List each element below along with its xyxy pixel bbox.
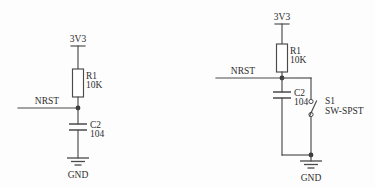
switch-s1[interactable] xyxy=(309,99,317,116)
resistor-body-right xyxy=(277,44,288,72)
ground-symbol-left xyxy=(67,158,89,165)
net-label-nrst-left: NRST xyxy=(35,96,59,106)
ground-label-right: GND xyxy=(301,173,322,183)
circuit-right: 3V3 R1 10K NRST C2 104 xyxy=(216,12,364,183)
switch-designator: S1 xyxy=(325,96,335,106)
ground-symbol-right xyxy=(300,161,322,168)
power-label-right: 3V3 xyxy=(274,12,291,22)
power-label-left: 3V3 xyxy=(70,34,87,44)
schematic-canvas: 3V3 R1 10K NRST C2 104 xyxy=(0,0,375,188)
resistor-body-left xyxy=(73,69,84,97)
capacitor-value-left: 104 xyxy=(90,129,105,139)
net-label-nrst-right: NRST xyxy=(231,66,255,76)
resistor-value-left: 10K xyxy=(86,80,103,90)
schematic-diagram: 3V3 R1 10K NRST C2 104 xyxy=(0,0,375,188)
circuit-left: 3V3 R1 10K NRST C2 104 xyxy=(18,34,105,180)
switch-value: SW-SPST xyxy=(325,106,364,116)
resistor-value-right: 10K xyxy=(290,55,307,65)
ground-label-left: GND xyxy=(68,170,89,180)
switch-terminal-top xyxy=(309,99,313,103)
capacitor-value-right: 104 xyxy=(294,97,309,107)
